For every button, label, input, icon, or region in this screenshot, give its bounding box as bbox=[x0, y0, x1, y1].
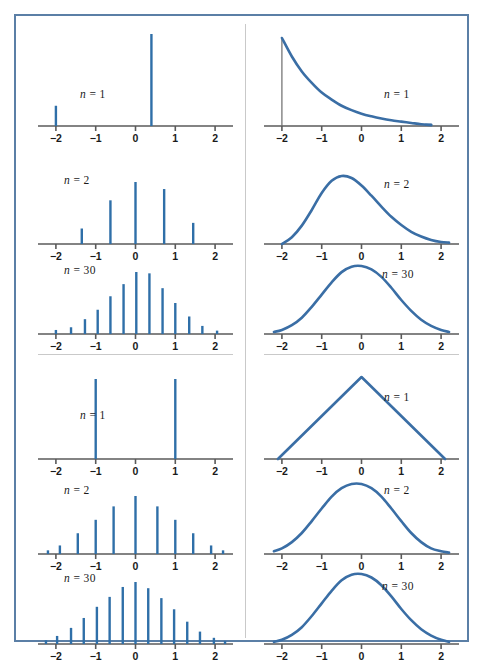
axis-tick-label: 1 bbox=[165, 340, 185, 352]
axis-tick-label: −1 bbox=[312, 340, 332, 352]
axis-tick-label: −2 bbox=[46, 132, 66, 144]
axis-tick-label: −2 bbox=[46, 650, 66, 662]
chart-panel-tl-n1: n = 1−2−1012 bbox=[38, 26, 233, 146]
axis-tick-label: 1 bbox=[391, 650, 411, 662]
chart-svg-bl-n1 bbox=[38, 361, 233, 481]
series-label-tr-n2: n = 2 bbox=[384, 178, 410, 190]
axis-tick-label: 0 bbox=[352, 650, 372, 662]
axis-tick-label: 1 bbox=[391, 340, 411, 352]
series-label-bl-n30: n = 30 bbox=[64, 572, 96, 584]
axis-tick-label: 2 bbox=[431, 650, 451, 662]
series-label-bl-n2: n = 2 bbox=[64, 484, 90, 496]
axis-tick-label: 0 bbox=[126, 650, 146, 662]
axis-tick-label: 0 bbox=[126, 132, 146, 144]
axis-tick-label: 1 bbox=[165, 650, 185, 662]
series-label-br-n2: n = 2 bbox=[384, 484, 410, 496]
chart-panel-tl-n30: n = 30−2−1012 bbox=[38, 256, 233, 361]
chart-panel-br-n30: n = 30−2−1012 bbox=[264, 566, 459, 664]
axis-tick-label: −1 bbox=[312, 650, 332, 662]
axis-tick-label: 1 bbox=[165, 132, 185, 144]
axis-tick-label: −2 bbox=[272, 132, 292, 144]
axis-tick-label: 2 bbox=[431, 340, 451, 352]
chart-svg-tr-n1 bbox=[264, 26, 459, 146]
axis-tick-label: 0 bbox=[126, 340, 146, 352]
figure-frame: n = 1−2−1012n = 2−2−1012n = 30−2−1012n =… bbox=[14, 14, 469, 642]
axis-tick-label: 0 bbox=[352, 132, 372, 144]
axis-tick-label: 2 bbox=[205, 132, 225, 144]
chart-panel-bl-n30: n = 30−2−1012 bbox=[38, 566, 233, 664]
axis-tick-label: −2 bbox=[272, 650, 292, 662]
chart-panel-tr-n30: n = 30−2−1012 bbox=[264, 256, 459, 361]
axis-tick-label: −2 bbox=[272, 340, 292, 352]
axis-tick-label: 2 bbox=[205, 340, 225, 352]
chart-svg-br-n1 bbox=[264, 361, 459, 481]
axis-tick-label: −1 bbox=[86, 132, 106, 144]
axis-tick-label: −1 bbox=[86, 340, 106, 352]
series-label-bl-n1: n = 1 bbox=[80, 409, 106, 421]
series-label-tl-n1: n = 1 bbox=[80, 88, 106, 100]
column-divider bbox=[245, 24, 246, 638]
axis-tick-label: −2 bbox=[46, 340, 66, 352]
series-label-tr-n30: n = 30 bbox=[382, 268, 414, 280]
axis-tick-label: −1 bbox=[312, 132, 332, 144]
series-label-tl-n30: n = 30 bbox=[64, 264, 96, 276]
series-label-br-n1: n = 1 bbox=[384, 391, 410, 403]
axis-tick-label: −1 bbox=[86, 650, 106, 662]
chart-panel-tr-n1: n = 1−2−1012 bbox=[264, 26, 459, 146]
series-label-tl-n2: n = 2 bbox=[64, 174, 90, 186]
axis-tick-label: 1 bbox=[391, 132, 411, 144]
series-label-tr-n1: n = 1 bbox=[384, 88, 410, 100]
axis-tick-label: 2 bbox=[431, 132, 451, 144]
chart-panel-br-n1: n = 1−2−1012 bbox=[264, 361, 459, 481]
axis-tick-label: 2 bbox=[205, 650, 225, 662]
axis-tick-label: 0 bbox=[352, 340, 372, 352]
series-label-br-n30: n = 30 bbox=[382, 580, 414, 592]
chart-svg-tl-n1 bbox=[38, 26, 233, 146]
chart-panel-bl-n1: n = 1−2−1012 bbox=[38, 361, 233, 481]
